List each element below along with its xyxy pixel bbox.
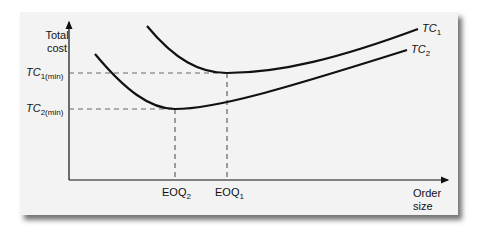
tc1-label-main: TC <box>422 22 437 34</box>
tc2-series-label: TC2 <box>411 43 430 60</box>
tc1-label-sub: 1 <box>437 28 441 37</box>
y-axis-label-line1: Total <box>42 29 72 42</box>
y-axis-label-line2: cost <box>42 42 72 55</box>
tc1min-label-main: TC <box>26 66 41 78</box>
tc1min-label-sub: 1(min) <box>41 72 64 81</box>
eoq1-label-sub: 1 <box>239 192 243 201</box>
eoq2-label-sub: 2 <box>186 192 190 201</box>
eoq1-label: EOQ1 <box>215 186 244 203</box>
x-axis-label: Order size <box>413 187 441 213</box>
tc2-min-label: TC2(min) <box>26 102 63 119</box>
tc2min-label-sub: 2(min) <box>41 108 64 117</box>
tc1-series-label: TC1 <box>422 22 441 39</box>
tc2-label-main: TC <box>411 43 426 55</box>
x-axis-label-line1: Order <box>413 187 441 200</box>
tc2-label-sub: 2 <box>426 49 430 58</box>
y-axis-label: Total cost <box>42 29 72 55</box>
tc1-curve <box>147 26 418 73</box>
eoq1-label-main: EOQ <box>215 186 239 198</box>
x-axis-label-line2: size <box>413 200 441 213</box>
tc2-curve <box>95 50 407 109</box>
tc2min-label-main: TC <box>26 102 41 114</box>
tc1-min-label: TC1(min) <box>26 66 63 83</box>
eoq2-label: EOQ2 <box>162 186 191 203</box>
eoq2-label-main: EOQ <box>162 186 186 198</box>
